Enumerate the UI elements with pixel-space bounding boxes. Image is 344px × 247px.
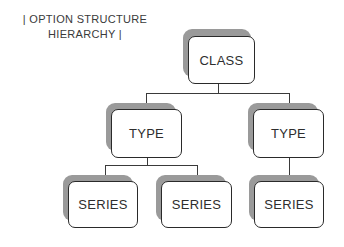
node-type-left-box: TYPE (111, 109, 182, 158)
node-series-1-box: SERIES (68, 181, 138, 228)
title-line-2: HIERARCHY | (15, 27, 155, 42)
node-series-2-box: SERIES (161, 181, 232, 228)
node-type-right-box: TYPE (253, 109, 324, 158)
title-line-1: | OPTION STRUCTURE (15, 12, 155, 27)
node-class-box: CLASS (188, 36, 255, 84)
connector-class-down (218, 83, 219, 93)
connector-type-left-horizontal (105, 165, 198, 166)
diagram-title: | OPTION STRUCTURE HIERARCHY | (15, 12, 155, 42)
connector-class-horizontal (146, 93, 290, 94)
connector-type-right-down (289, 157, 290, 177)
node-series-3-box: SERIES (254, 181, 324, 228)
connector-type-left-down (147, 157, 148, 165)
